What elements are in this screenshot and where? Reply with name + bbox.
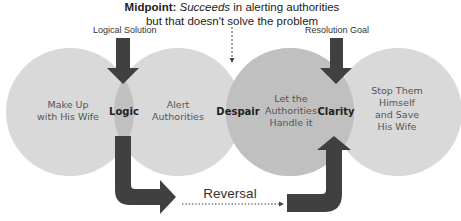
story-structure-diagram: Midpoint: Succeeds in alerting authoriti… <box>0 0 461 221</box>
lens-label-logic: Logic <box>104 106 144 117</box>
resolution-goal-label: Resolution Goal <box>305 25 365 35</box>
midpoint-emphasis: Succeeds <box>180 1 231 13</box>
midpoint-label: Midpoint: <box>125 1 177 13</box>
lens-label-clarity: Clarity <box>316 106 356 117</box>
midpoint-rest: in alerting authorities <box>230 1 339 13</box>
midpoint-annotation: Midpoint: Succeeds in alerting authoriti… <box>112 0 352 28</box>
circle-text-make-up: Make Up with His Wife <box>30 99 106 123</box>
lens-label-despair: Despair <box>210 106 266 117</box>
circle-text-let-authorities: Let the Authorities Handle it <box>258 93 324 129</box>
reversal-label: Reversal <box>200 186 260 201</box>
logical-solution-label: Logical Solution <box>93 25 153 35</box>
circle-text-stop-them: Stop Them Himself and Save His Wife <box>364 85 430 133</box>
circle-text-alert-authorities: Alert Authorities <box>145 99 211 123</box>
